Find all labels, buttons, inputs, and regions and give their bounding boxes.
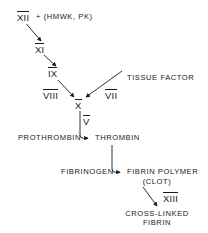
node-prothrombin: PROTHROMBIN <box>18 134 81 142</box>
node-factor-x: X <box>75 99 82 110</box>
node-factor-ix: IX <box>48 67 57 78</box>
node-cross-linked-fibrin-line1: CROSS-LINKED <box>125 210 189 218</box>
node-fibrinogen: FIBRINOGEN <box>61 168 114 176</box>
node-cross-linked-fibrin-line2: FIBRIN <box>143 219 171 227</box>
node-factor-viii: VIII <box>43 89 58 100</box>
node-thrombin: THROMBIN <box>95 134 140 142</box>
node-factor-xii: XII <box>17 11 29 22</box>
arrow-ix-to-x <box>58 80 74 97</box>
coagulation-cascade-diagram: XII + (HMWK, PK) XI IX VIII VII TISSUE F… <box>0 0 208 233</box>
node-tissue-factor: TISSUE FACTOR <box>127 74 194 82</box>
arrow-xi-to-ix <box>44 55 56 66</box>
node-factor-vii: VII <box>105 89 117 100</box>
node-factor-xiii: XIII <box>163 192 178 203</box>
arrow-xii-to-xi <box>27 24 42 41</box>
node-fibrin-polymer: FIBRIN POLYMER <box>127 168 198 176</box>
node-factor-v: V <box>83 115 90 126</box>
node-cofactors: + (HMWK, PK) <box>36 13 93 21</box>
arrow-clot-to-cross-linked-fibrin <box>143 187 157 206</box>
node-factor-xi: XI <box>35 43 44 54</box>
node-clot: (CLOT) <box>143 178 172 186</box>
